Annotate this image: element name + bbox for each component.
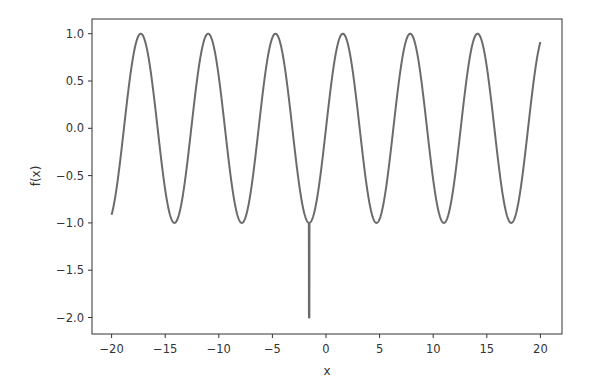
line-chart: −20−15−10−505101520 1.00.50.0−0.5−1.0−1.… xyxy=(0,0,591,392)
x-tick-label: −15 xyxy=(153,342,177,356)
y-tick-label: 1.0 xyxy=(66,27,84,41)
x-axis-ticks: −20−15−10−505101520 xyxy=(99,334,547,356)
y-axis-label: f(x) xyxy=(29,166,43,187)
y-axis-ticks: 1.00.50.0−0.5−1.0−1.5−2.0 xyxy=(56,27,92,325)
x-tick-label: 5 xyxy=(376,342,383,356)
y-tick-label: −0.5 xyxy=(56,169,84,183)
series-line-fx xyxy=(112,34,541,318)
x-tick-label: −20 xyxy=(99,342,123,356)
y-tick-label: −1.5 xyxy=(56,263,84,277)
x-tick-label: 0 xyxy=(322,342,329,356)
x-tick-label: 20 xyxy=(533,342,548,356)
y-tick-label: 0.5 xyxy=(66,74,84,88)
x-tick-label: 15 xyxy=(479,342,494,356)
x-tick-label: 10 xyxy=(426,342,441,356)
x-axis-label: x xyxy=(323,364,330,378)
y-tick-label: −2.0 xyxy=(56,311,84,325)
y-tick-label: −1.0 xyxy=(56,216,84,230)
x-tick-label: −5 xyxy=(264,342,281,356)
plot-area xyxy=(92,19,562,334)
x-tick-label: −10 xyxy=(207,342,231,356)
y-tick-label: 0.0 xyxy=(66,121,84,135)
